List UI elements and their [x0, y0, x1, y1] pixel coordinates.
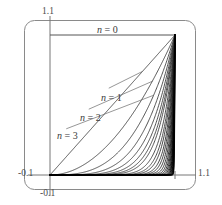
curve-label-n3: n = 3 — [57, 130, 78, 141]
n3-equals: = 3 — [62, 130, 78, 141]
x-axis-max-label: 1.1 — [198, 168, 210, 178]
curve-label-n0: n = 0 — [97, 24, 118, 35]
x-axis-min-label: -0.1 — [40, 188, 55, 198]
n1-equals: = 1 — [106, 92, 122, 103]
power-functions-figure: 1.1 -0.1 -0.1 1.1 n = 0 n = 1 n = 2 n = … — [0, 0, 222, 205]
y-axis-min-label: -0.1 — [18, 168, 33, 178]
curve-label-n2: n = 2 — [80, 112, 101, 123]
n2-equals: = 2 — [85, 112, 101, 123]
n0-equals: = 0 — [102, 24, 118, 35]
curve-label-n1: n = 1 — [101, 92, 122, 103]
y-axis-max-label: 1.1 — [42, 6, 54, 16]
